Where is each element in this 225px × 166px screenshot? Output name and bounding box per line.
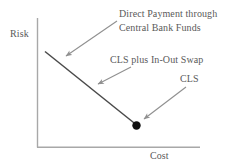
y-axis-label: Risk [10, 28, 29, 39]
risk-cost-tradeoff-figure: Risk Cost Direct Payment through Central… [0, 0, 225, 166]
annotation-cls: CLS [180, 73, 199, 84]
arrow-cls-plus-swap [98, 67, 131, 84]
annotation-direct-payment: Direct Payment through Central Bank Fund… [119, 8, 217, 33]
arrow-cls [144, 87, 186, 119]
arrow-direct-payment [66, 21, 117, 56]
x-axis-label: Cost [150, 150, 169, 161]
annotation-direct-payment-line1: Direct Payment through [119, 8, 217, 19]
cls-data-point-marker [132, 121, 140, 129]
annotation-direct-payment-line2: Central Bank Funds [119, 22, 217, 33]
annotation-cls-plus-in-out-swap: CLS plus In-Out Swap [110, 54, 203, 65]
